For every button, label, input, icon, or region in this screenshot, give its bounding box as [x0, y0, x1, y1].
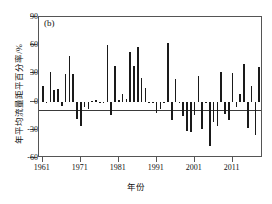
bar [107, 45, 109, 101]
bar [171, 102, 173, 121]
bar [42, 86, 44, 102]
bar [194, 102, 196, 115]
bar [247, 102, 249, 128]
bar [179, 102, 181, 103]
bar [133, 66, 135, 102]
x-axis-tick [118, 157, 119, 162]
bar [103, 102, 105, 103]
bar [50, 72, 52, 102]
bar [65, 74, 67, 101]
bar [95, 100, 97, 102]
y-axis-label: 年平均流量距平百分率/% [12, 29, 24, 159]
y-axis-tick-label: -30 [27, 124, 38, 133]
x-axis-tick-label: 2011 [224, 163, 240, 172]
panel-label: (b) [44, 18, 55, 28]
bar [122, 94, 124, 102]
bar [258, 67, 260, 102]
bar [224, 102, 226, 114]
bar [141, 78, 143, 102]
bar [137, 47, 139, 102]
bar [239, 94, 241, 102]
y-axis-tick-label: 0 [34, 96, 38, 105]
bar [213, 102, 215, 123]
bar [160, 102, 162, 110]
x-axis-tick [80, 157, 81, 162]
bar [243, 64, 245, 102]
bar [152, 102, 154, 103]
bar [175, 79, 177, 102]
bar [205, 102, 207, 103]
x-axis-tick [156, 157, 157, 162]
bar [198, 76, 200, 101]
x-axis-label: 年份 [0, 180, 272, 192]
bar [228, 102, 230, 121]
bar [145, 88, 147, 101]
bar [209, 102, 211, 146]
bar [57, 89, 59, 101]
y-axis-tick-label: 30 [30, 68, 38, 77]
bar [220, 72, 222, 101]
x-axis-tick [194, 157, 195, 162]
y-axis-tick-label: -60 [27, 153, 38, 162]
bar [129, 52, 131, 102]
x-axis-tick [232, 157, 233, 162]
bar [76, 102, 78, 119]
bar [72, 74, 74, 101]
bar [201, 102, 203, 129]
bar [61, 102, 63, 107]
x-axis-tick-label: 2001 [186, 163, 202, 172]
bar [91, 101, 93, 102]
bar [217, 102, 219, 126]
bar-series [39, 17, 261, 156]
bar [236, 102, 238, 108]
y-axis-tick-label: 90 [30, 12, 38, 21]
bar [88, 102, 90, 110]
bar [99, 102, 101, 104]
bar [156, 102, 158, 113]
bar [118, 100, 120, 102]
x-axis-tick [42, 157, 43, 162]
bar [46, 102, 48, 103]
bar [186, 102, 188, 131]
bar [84, 102, 86, 108]
bar [255, 102, 257, 136]
bar [69, 56, 71, 101]
x-axis-tick-label: 1981 [110, 163, 126, 172]
figure-panel-b: (b) 年平均流量距平百分率/% 年份 9060300-30-601961197… [0, 0, 272, 204]
bar [182, 102, 184, 116]
bar [53, 90, 55, 101]
bar [167, 43, 169, 101]
x-axis-tick-label: 1991 [148, 163, 164, 172]
bar [190, 102, 192, 132]
bar [80, 102, 82, 126]
bar [163, 102, 165, 103]
plot-area [38, 16, 262, 157]
bar [110, 102, 112, 115]
bar [148, 102, 150, 104]
bar [114, 66, 116, 102]
y-axis-tick-label: 60 [30, 40, 38, 49]
bar [251, 86, 253, 102]
bar [126, 99, 128, 102]
bar [232, 73, 234, 101]
x-axis-tick-label: 1961 [34, 163, 50, 172]
x-axis-tick-label: 1971 [72, 163, 88, 172]
